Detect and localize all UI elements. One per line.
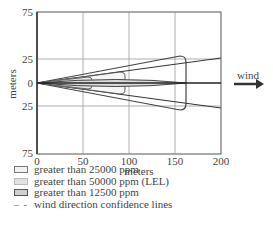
swatch-50000 xyxy=(14,178,28,185)
legend-item-confidence: – - wind direction confidence lines xyxy=(14,199,172,211)
legend-item-12500: greater than 12500 ppm xyxy=(14,187,172,199)
legend-item-25000: greater than 25000 ppm xyxy=(14,164,172,176)
y-tick-neg75: 75 xyxy=(22,147,34,159)
legend-label: wind direction confidence lines xyxy=(34,199,172,211)
legend: greater than 25000 ppm greater than 5000… xyxy=(14,164,172,210)
x-tick-200: 200 xyxy=(213,155,230,167)
y-axis-label: meters xyxy=(6,69,18,98)
dashed-line-icon: – - xyxy=(14,199,28,211)
swatch-12500 xyxy=(14,189,28,196)
y-tick-25: 25 xyxy=(22,53,34,65)
swatch-25000 xyxy=(14,166,28,173)
y-tick-neg25: 25 xyxy=(22,100,34,112)
y-tick-0: 0 xyxy=(28,77,34,89)
legend-label: greater than 25000 ppm xyxy=(34,164,139,176)
legend-label: greater than 12500 ppm xyxy=(34,187,139,199)
y-tick-75-top: 75 xyxy=(22,6,34,18)
